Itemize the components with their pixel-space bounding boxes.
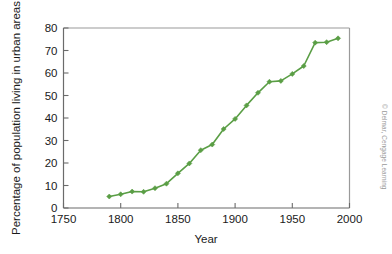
x-axis-title: Year [194,233,217,245]
x-tick-label: 1850 [165,213,191,225]
y-tick-label: 30 [45,135,58,147]
x-tick-label: 1750 [51,213,77,225]
y-tick-label: 70 [45,45,58,57]
urbanization-line-chart: 175018001850190019502000 010203040506070… [0,0,392,254]
x-tick-label: 2000 [337,213,363,225]
x-tick-label: 1950 [280,213,306,225]
y-tick-label: 40 [45,112,58,124]
y-tick-label: 50 [45,90,58,102]
y-axis-tick-labels: 01020304050607080 [45,22,58,214]
copyright-credit: © Delmar, Cengage Learning [251,104,391,118]
x-tick-label: 1900 [222,213,248,225]
y-tick-label: 60 [45,67,58,79]
y-tick-label: 20 [45,157,58,169]
y-tick-label: 0 [51,202,57,214]
y-tick-label: 80 [45,22,58,34]
x-tick-label: 1800 [108,213,134,225]
y-tick-label: 10 [45,180,58,192]
y-axis-title: Percentage of population living in urban… [10,1,22,235]
figure: 175018001850190019502000 010203040506070… [0,0,392,254]
